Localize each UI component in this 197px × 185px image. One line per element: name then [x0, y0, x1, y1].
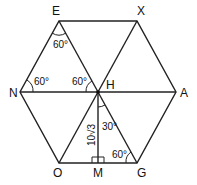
center-point-H — [96, 90, 100, 94]
vertex-label-A: A — [180, 86, 188, 100]
vertex-label-N: N — [9, 86, 18, 100]
angle-label-H-left: 60° — [72, 76, 87, 87]
vertex-label-M: M — [93, 166, 103, 180]
vertex-label-E: E — [52, 4, 60, 18]
vertex-label-H: H — [106, 78, 115, 92]
angle-arc-N — [27, 80, 33, 92]
vertex-label-X: X — [137, 4, 145, 18]
angle-label-H-down: 30° — [102, 121, 117, 132]
angle-arc-H-down — [98, 105, 105, 107]
angle-label-N: 60° — [34, 76, 49, 87]
length-label-HM: 10√3 — [86, 123, 97, 146]
angle-label-G: 60° — [112, 149, 127, 160]
angle-arc-E — [52, 33, 66, 35]
hexagon-diagram: E X N A H O M G 60° 60° 60° 30° 60° 10√3 — [0, 0, 197, 185]
vertex-label-O: O — [53, 166, 62, 180]
vertex-label-G: G — [137, 166, 146, 180]
angle-label-E: 60° — [53, 39, 68, 50]
